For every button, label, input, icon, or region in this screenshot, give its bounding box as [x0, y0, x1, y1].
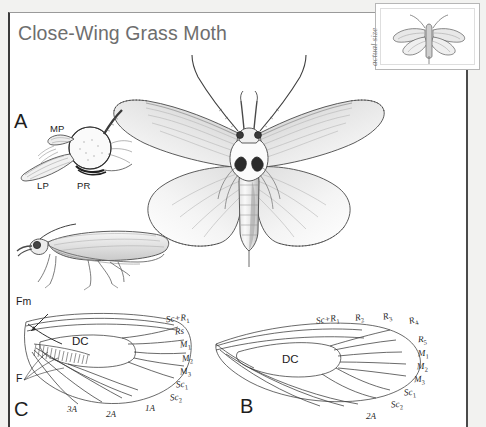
label-lp-labial-palp: LP — [37, 180, 49, 191]
vein-label-c-m1: M1 — [179, 338, 191, 351]
plate-right-rule — [466, 12, 468, 427]
panel-letter-c: C — [14, 398, 28, 421]
vein-label-b-sc2: Sc2 — [390, 398, 403, 411]
label-pr-proboscis: PR — [77, 180, 91, 191]
moth-lateral-view — [14, 212, 179, 292]
vein-label-c-m2: M2 — [181, 352, 193, 365]
illustration-plate-page: Close-Wing Grass Moth — [0, 0, 486, 427]
label-dc-discal-cell-c: DC — [72, 335, 89, 347]
moth-actual-size-icon — [384, 10, 474, 66]
vein-label-c-sc2: Sc2 — [169, 391, 182, 404]
panel-letter-b: B — [240, 395, 253, 418]
label-dc-discal-cell-b: DC — [282, 353, 299, 365]
actual-size-inset — [375, 3, 480, 70]
vein-label-b-r2: R2 — [354, 311, 364, 324]
label-f-frenulum: F — [16, 372, 22, 384]
vein-label-c-3a: 3A — [67, 404, 77, 414]
vein-label-c-rs: Rs — [175, 326, 185, 337]
label-fm-frenulum-membrane: Fm — [16, 295, 31, 307]
page-title: Close-Wing Grass Moth — [18, 22, 227, 45]
vein-label-b-sc1: Sc1 — [403, 386, 416, 399]
vein-label-b-m3: M3 — [414, 374, 426, 387]
panel-letter-a: A — [14, 110, 27, 133]
label-mp-maxillary-palp: MP — [50, 123, 65, 134]
vein-label-c-sc1: Sc1 — [175, 378, 188, 391]
vein-label-b-m1: M1 — [418, 348, 429, 360]
vein-label-c-m3: M3 — [179, 365, 191, 378]
vein-label-c-1a: 1A — [145, 403, 155, 413]
vein-label-b-2a: 2A — [366, 411, 376, 421]
vein-label-c-sc-r1: Sc+R1 — [165, 312, 189, 326]
vein-label-b-r5: R5 — [418, 334, 428, 346]
vein-label-b-m2: M2 — [417, 361, 428, 373]
vein-label-c-2a: 2A — [106, 409, 116, 419]
